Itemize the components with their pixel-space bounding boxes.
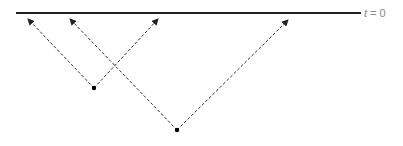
light-rays [28,19,288,130]
spacetime-diagram [0,0,403,146]
events [92,86,179,132]
time-zero-label: t = 0 [364,7,386,19]
time-value: = 0 [367,7,386,19]
light-ray-up-left-arrow [28,19,94,88]
light-ray-up-left-arrow [70,19,177,130]
event-1-dot [92,86,96,90]
event-2-dot [175,128,179,132]
light-ray-up-right-arrow [177,20,288,130]
